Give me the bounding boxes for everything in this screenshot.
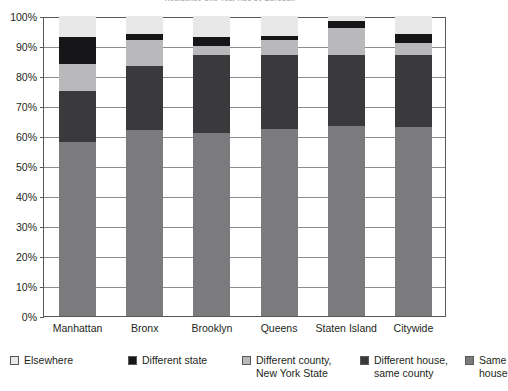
y-axis-tick-label: 0%: [22, 311, 37, 323]
bar-segment[interactable]: [395, 43, 432, 55]
legend-item[interactable]: Same house: [465, 354, 508, 379]
bar-segment[interactable]: [59, 142, 96, 316]
y-axis-tick-label: 90%: [16, 41, 37, 53]
y-axis-tick-mark: [40, 107, 44, 108]
y-axis-tick-mark: [40, 17, 44, 18]
gridline: [44, 107, 445, 108]
bar-segment[interactable]: [395, 34, 432, 43]
x-axis-tick-label: Citywide: [394, 322, 434, 334]
bar-segment[interactable]: [395, 127, 432, 316]
bar-group: Brooklyn: [193, 17, 230, 316]
bar-segment[interactable]: [261, 129, 298, 317]
stacked-bar[interactable]: [193, 17, 230, 316]
chart-title: Residence One Year Ago by Borough: [0, 0, 460, 1]
legend-swatch-icon: [10, 356, 19, 365]
bar-group: Queens: [261, 17, 298, 316]
gridline: [44, 17, 445, 18]
bar-segment[interactable]: [126, 40, 163, 66]
bar-group: Bronx: [126, 17, 163, 316]
gridline: [44, 167, 445, 168]
legend-label: Elsewhere: [24, 354, 73, 367]
legend-item[interactable]: Different state: [128, 354, 207, 367]
legend-item[interactable]: Elsewhere: [10, 354, 73, 367]
gridline: [44, 197, 445, 198]
bar-segment[interactable]: [59, 91, 96, 142]
stacked-bar[interactable]: [59, 17, 96, 316]
bar-segment[interactable]: [395, 16, 432, 34]
bar-segment[interactable]: [328, 126, 365, 317]
y-axis-tick-mark: [40, 137, 44, 138]
legend-swatch-icon: [465, 356, 474, 365]
bar-segment[interactable]: [261, 36, 298, 41]
stacked-bar[interactable]: [261, 17, 298, 316]
x-axis-tick-label: Bronx: [131, 322, 158, 334]
y-axis-tick-label: 60%: [16, 131, 37, 143]
gridline: [44, 227, 445, 228]
bar-segment[interactable]: [261, 55, 298, 129]
gridline: [44, 257, 445, 258]
legend-label: Different county, New York State: [256, 354, 331, 379]
stacked-bar[interactable]: [328, 17, 365, 316]
y-axis-tick-label: 10%: [16, 281, 37, 293]
plot-area: 0%10%20%30%40%50%60%70%80%90%100% Manhat…: [43, 17, 446, 317]
y-axis-tick-mark: [40, 77, 44, 78]
bar-segment[interactable]: [261, 16, 298, 36]
bar-segment[interactable]: [193, 46, 230, 55]
bar-segment[interactable]: [59, 16, 96, 37]
bar-segment[interactable]: [59, 64, 96, 91]
x-axis-tick-label: Staten Island: [316, 322, 377, 334]
bar-segment[interactable]: [395, 55, 432, 127]
gridline: [44, 137, 445, 138]
bar-segment[interactable]: [193, 55, 230, 133]
legend-swatch-icon: [128, 356, 137, 365]
y-axis-tick-label: 80%: [16, 71, 37, 83]
y-axis-tick-label: 50%: [16, 161, 37, 173]
legend-swatch-icon: [360, 356, 369, 365]
y-axis-tick-mark: [40, 167, 44, 168]
bar-segment[interactable]: [126, 130, 163, 316]
gridline: [44, 287, 445, 288]
y-axis-tick-mark: [40, 287, 44, 288]
gridline: [44, 47, 445, 48]
gridline: [44, 77, 445, 78]
bar-segment[interactable]: [126, 16, 163, 34]
legend-label: Different state: [142, 354, 207, 367]
bar-group: Manhattan: [59, 17, 96, 316]
bar-segment[interactable]: [328, 28, 365, 55]
bar-segment[interactable]: [126, 66, 163, 131]
bar-segment[interactable]: [193, 37, 230, 46]
y-axis-tick-mark: [40, 47, 44, 48]
bar-segment[interactable]: [193, 16, 230, 37]
bar-group: Staten Island: [328, 17, 365, 316]
bar-segment[interactable]: [59, 37, 96, 64]
y-axis-tick-label: 40%: [16, 191, 37, 203]
stacked-bar[interactable]: [126, 17, 163, 316]
x-axis-tick-label: Manhattan: [53, 322, 103, 334]
bar-group: Citywide: [395, 17, 432, 316]
x-axis-tick-label: Queens: [261, 322, 298, 334]
legend-item[interactable]: Different county, New York State: [242, 354, 331, 379]
chart-legend: ElsewhereDifferent stateDifferent county…: [10, 354, 455, 388]
x-axis-tick-label: Brooklyn: [191, 322, 232, 334]
bar-segment[interactable]: [328, 21, 365, 29]
bar-segment[interactable]: [126, 34, 163, 40]
legend-label: Same house: [479, 354, 508, 379]
bar-segment[interactable]: [261, 40, 298, 55]
y-axis-tick-mark: [40, 317, 44, 318]
legend-item[interactable]: Different house, same county: [360, 354, 448, 379]
y-axis-tick-mark: [40, 257, 44, 258]
legend-swatch-icon: [242, 356, 251, 365]
bar-segment[interactable]: [193, 133, 230, 316]
legend-label: Different house, same county: [374, 354, 448, 379]
bar-segment[interactable]: [328, 55, 365, 126]
y-axis-tick-mark: [40, 197, 44, 198]
y-axis-tick-label: 100%: [10, 11, 37, 23]
y-axis-tick-label: 70%: [16, 101, 37, 113]
bar-segment[interactable]: [328, 16, 365, 21]
y-axis-tick-label: 30%: [16, 221, 37, 233]
stacked-bar[interactable]: [395, 17, 432, 316]
y-axis-tick-mark: [40, 227, 44, 228]
y-axis-tick-label: 20%: [16, 251, 37, 263]
